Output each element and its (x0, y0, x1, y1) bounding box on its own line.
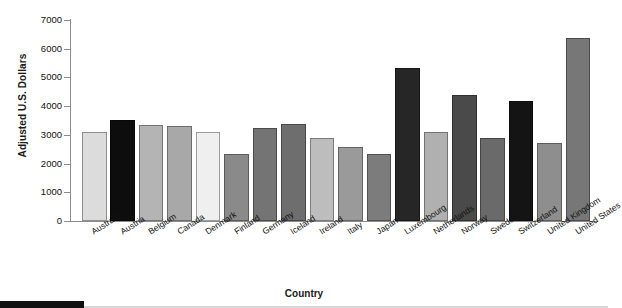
y-tick-label-6000: 6000 (18, 44, 62, 54)
x-axis-category-labels: AustraliaAustriaBelgiumCanadaDenmarkFinl… (0, 222, 608, 284)
x-label-italy: Italy (346, 220, 364, 236)
bar-united-states (566, 38, 591, 221)
y-tick-label-2000: 2000 (18, 159, 62, 169)
bar-iceland (281, 124, 306, 221)
bar-belgium (139, 125, 164, 222)
scan-mark-artifact (0, 301, 84, 308)
bar-luxembourg (395, 68, 420, 221)
bar-denmark (196, 132, 221, 221)
y-tick-label-3000: 3000 (18, 130, 62, 140)
y-tick-label-1000: 1000 (18, 187, 62, 197)
y-tick-label-7000: 7000 (18, 15, 62, 25)
bar-italy (338, 147, 363, 221)
bar-canada (167, 126, 192, 221)
bar-ireland (310, 138, 335, 221)
bar-norway (452, 95, 477, 221)
bar-germany (253, 128, 278, 221)
y-tick-label-5000: 5000 (18, 72, 62, 82)
bar-japan (367, 154, 392, 221)
y-tick-label-4000: 4000 (18, 101, 62, 111)
bar-series (70, 20, 598, 221)
bar-austria (110, 120, 135, 221)
bar-sweden (480, 138, 505, 221)
bar-switzerland (509, 101, 534, 221)
bar-australia (82, 132, 107, 221)
x-axis-title: Country (0, 288, 608, 299)
